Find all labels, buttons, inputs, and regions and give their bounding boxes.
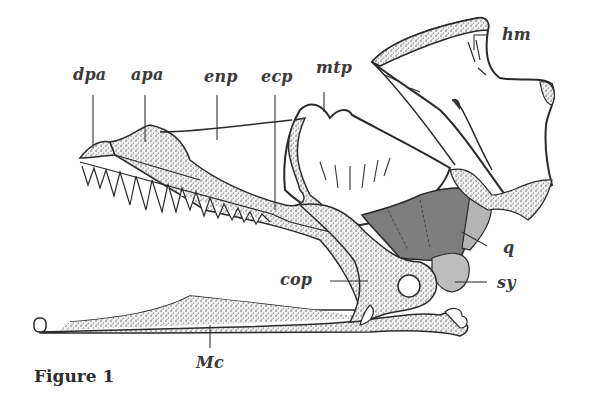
- label-apa: apa: [131, 67, 164, 83]
- foramen: [398, 275, 420, 297]
- label-Mc: Mc: [196, 355, 224, 371]
- label-ecp: ecp: [261, 69, 293, 85]
- label-q: q: [503, 240, 514, 256]
- label-dpa: dpa: [73, 67, 106, 83]
- jaw-tip: [34, 318, 46, 332]
- skull-figure: dpa apa enp ecp mtp hm q sy cop Mc Figur…: [0, 0, 590, 395]
- label-mtp: mtp: [316, 60, 352, 76]
- label-cop: cop: [280, 272, 312, 288]
- label-enp: enp: [204, 69, 238, 85]
- figure-caption: Figure 1: [34, 366, 114, 386]
- label-hm: hm: [502, 27, 531, 43]
- skull-drawing: [0, 0, 590, 395]
- label-sy: sy: [497, 275, 516, 291]
- symplectic: [432, 253, 469, 292]
